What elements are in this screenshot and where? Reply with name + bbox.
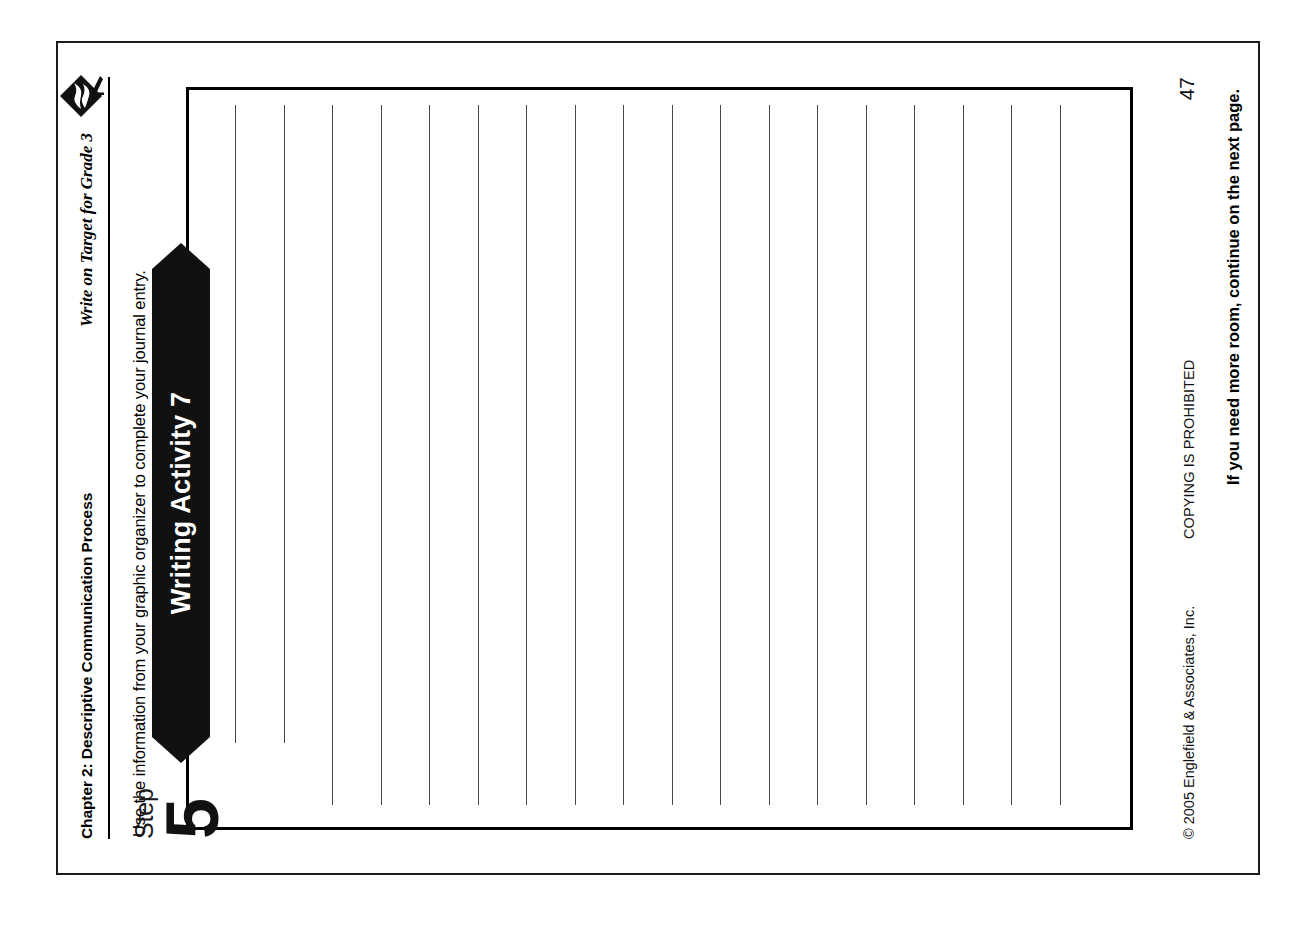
rule-line xyxy=(720,105,721,805)
rule-line xyxy=(866,105,867,805)
copyright-text: © 2005 Englefield & Associates, Inc. xyxy=(1181,606,1197,839)
rule-line xyxy=(623,105,624,805)
rule-line xyxy=(332,105,333,805)
rule-line xyxy=(817,105,818,805)
rule-line xyxy=(963,105,964,805)
copying-prohibited-text: COPYING IS PROHIBITED xyxy=(1181,360,1197,539)
rule-line xyxy=(1060,105,1061,805)
continue-next-page-note: If you need more room, continue on the n… xyxy=(1224,89,1243,485)
instruction-text: Use the information from your graphic or… xyxy=(130,270,149,837)
writing-activity-banner: Writing Activity 7 xyxy=(152,243,210,763)
document-body: Chapter 2: Descriptive Communication Pro… xyxy=(56,41,1260,875)
chapter-title: Chapter 2: Descriptive Communication Pro… xyxy=(78,493,96,839)
rule-line xyxy=(284,105,285,743)
rule-line xyxy=(526,105,527,805)
rule-line xyxy=(672,105,673,805)
rule-line xyxy=(575,105,576,805)
rule-line xyxy=(914,105,915,805)
step-marker: Step 5 xyxy=(132,769,227,839)
page-header: Chapter 2: Descriptive Communication Pro… xyxy=(76,77,110,839)
book-title: Write on Target for Grade 3 xyxy=(77,133,97,327)
page-number: 47 xyxy=(1175,77,1199,100)
step-number: 5 xyxy=(159,769,227,839)
banner-label: Writing Activity 7 xyxy=(152,243,210,763)
rule-line xyxy=(235,105,236,743)
rule-line xyxy=(769,105,770,805)
rule-line xyxy=(429,105,430,805)
page-footer: © 2005 Englefield & Associates, Inc. COP… xyxy=(1181,77,1207,839)
rule-line xyxy=(381,105,382,805)
rule-line xyxy=(478,105,479,805)
target-diamond-logo-icon xyxy=(58,73,104,119)
writing-activity-box xyxy=(186,87,1133,830)
ruled-writing-lines xyxy=(189,84,1136,827)
scanned-page-canvas: Chapter 2: Descriptive Communication Pro… xyxy=(0,0,1307,926)
rule-line xyxy=(1011,105,1012,805)
document-rotation-container: Chapter 2: Descriptive Communication Pro… xyxy=(56,41,1260,875)
